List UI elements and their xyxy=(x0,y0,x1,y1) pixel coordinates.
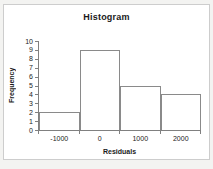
y-tick-label-2: 2 xyxy=(4,109,33,116)
x-tick-label-0: 0 xyxy=(80,135,120,142)
y-tick-label-6: 6 xyxy=(4,73,33,80)
y-tick-mark xyxy=(35,103,38,104)
x-axis-title: Residuals xyxy=(38,148,201,155)
histogram-bar-2000 xyxy=(161,94,202,130)
y-tick-mark xyxy=(35,59,38,60)
chart-frame: Histogram Frequency Residuals 0123456789… xyxy=(3,4,210,160)
chart-title: Histogram xyxy=(4,12,209,22)
y-tick-label-3: 3 xyxy=(4,100,33,107)
x-tick-mark xyxy=(38,131,39,134)
y-tick-mark xyxy=(35,41,38,42)
y-tick-label-9: 9 xyxy=(4,46,33,53)
x-tick-label-1000: 1000 xyxy=(120,135,160,142)
x-tick-mark xyxy=(200,131,201,134)
y-tick-label-4: 4 xyxy=(4,91,33,98)
y-tick-mark xyxy=(35,68,38,69)
y-tick-label-1: 1 xyxy=(4,118,33,125)
y-tick-label-7: 7 xyxy=(4,64,33,71)
y-tick-mark xyxy=(35,77,38,78)
histogram-bar-0 xyxy=(80,50,121,130)
y-tick-mark xyxy=(35,50,38,51)
y-tick-label-0: 0 xyxy=(4,127,33,134)
x-tick-label--1000: -1000 xyxy=(39,135,79,142)
x-tick-mark xyxy=(160,131,161,134)
y-tick-label-8: 8 xyxy=(4,55,33,62)
histogram-bar--1000 xyxy=(39,112,80,130)
x-tick-mark xyxy=(119,131,120,134)
y-tick-label-5: 5 xyxy=(4,82,33,89)
y-tick-mark xyxy=(35,86,38,87)
histogram-chart: Histogram Frequency Residuals 0123456789… xyxy=(0,0,213,169)
plot-area xyxy=(38,41,201,131)
x-tick-mark xyxy=(79,131,80,134)
y-tick-label-10: 10 xyxy=(4,38,33,45)
x-tick-label-2000: 2000 xyxy=(161,135,201,142)
y-tick-mark xyxy=(35,112,38,113)
histogram-bar-1000 xyxy=(120,86,161,131)
y-tick-mark xyxy=(35,94,38,95)
y-tick-mark xyxy=(35,121,38,122)
